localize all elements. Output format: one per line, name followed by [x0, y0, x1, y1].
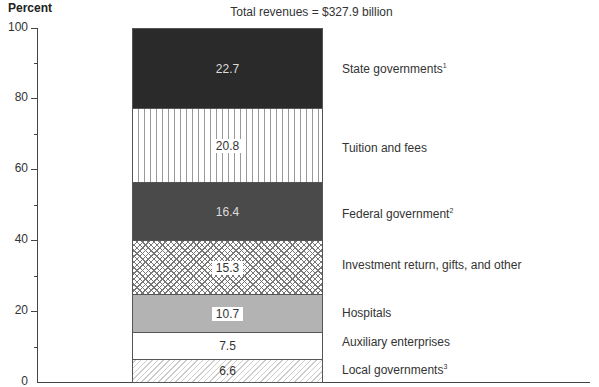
chart-title-text: Total revenues = $327.9 billion: [230, 5, 392, 19]
segment-auxiliary-enterprises: 7.5: [132, 332, 323, 360]
y-axis: [37, 28, 38, 382]
legend-federal-government: Federal government2: [342, 207, 453, 221]
tick-label-40: 40: [0, 232, 28, 246]
chart-title: Total revenues = $327.9 billion: [0, 5, 599, 19]
tick-90: [34, 63, 37, 64]
legend-local-governments: Local governments3: [342, 363, 447, 377]
segment-value: 22.7: [212, 62, 243, 76]
segment-federal-government: 16.4: [132, 182, 323, 241]
tick-80: [31, 98, 37, 99]
stacked-bar: 22.7 20.8 16.4 15.3 10.7 7.5 6.6: [132, 28, 325, 382]
segment-value: 16.4: [212, 205, 243, 219]
tick-30: [34, 276, 37, 277]
segment-investment-return: 15.3: [132, 240, 323, 295]
segment-local-governments: 6.6: [132, 359, 323, 383]
segment-value: 6.6: [215, 364, 240, 378]
tick-100: [31, 28, 37, 29]
tick-50: [34, 205, 37, 206]
legend-hospitals: Hospitals: [342, 306, 391, 320]
segment-value: 10.7: [212, 307, 243, 321]
legend-investment-return: Investment return, gifts, and other: [342, 258, 521, 272]
tick-60: [31, 169, 37, 170]
tick-label-60: 60: [0, 161, 28, 175]
segment-state-governments: 22.7: [132, 28, 323, 109]
segment-value: 15.3: [212, 261, 243, 275]
legend-state-governments: State governments1: [342, 62, 447, 76]
tick-10: [34, 347, 37, 348]
tick-70: [34, 134, 37, 135]
segment-value: 7.5: [215, 339, 240, 353]
tick-20: [31, 311, 37, 312]
tick-label-80: 80: [0, 90, 28, 104]
segment-tuition-and-fees: 20.8: [132, 108, 323, 183]
legend-tuition-and-fees: Tuition and fees: [342, 141, 427, 155]
tick-label-0: 0: [0, 374, 28, 387]
tick-40: [31, 240, 37, 241]
tick-label-20: 20: [0, 303, 28, 317]
segment-value: 20.8: [212, 139, 243, 153]
segment-hospitals: 10.7: [132, 294, 323, 333]
tick-label-100: 100: [0, 20, 28, 34]
legend-auxiliary-enterprises: Auxiliary enterprises: [342, 335, 450, 349]
